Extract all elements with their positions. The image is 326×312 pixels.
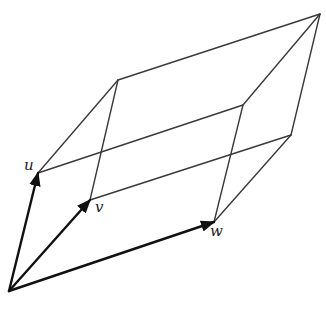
label-u: u bbox=[24, 158, 34, 173]
label-v: v bbox=[95, 200, 103, 215]
edge-v-uv bbox=[90, 80, 118, 200]
edge-v-vw bbox=[90, 135, 291, 200]
parallelepiped-edges bbox=[38, 14, 320, 222]
edge-w-uw bbox=[214, 105, 243, 222]
edge-uv-uvw bbox=[118, 14, 320, 80]
label-w: w bbox=[210, 224, 223, 239]
parallelepiped-diagram bbox=[0, 0, 326, 312]
basis-vectors bbox=[9, 173, 214, 291]
edge-u-uw bbox=[38, 105, 243, 173]
